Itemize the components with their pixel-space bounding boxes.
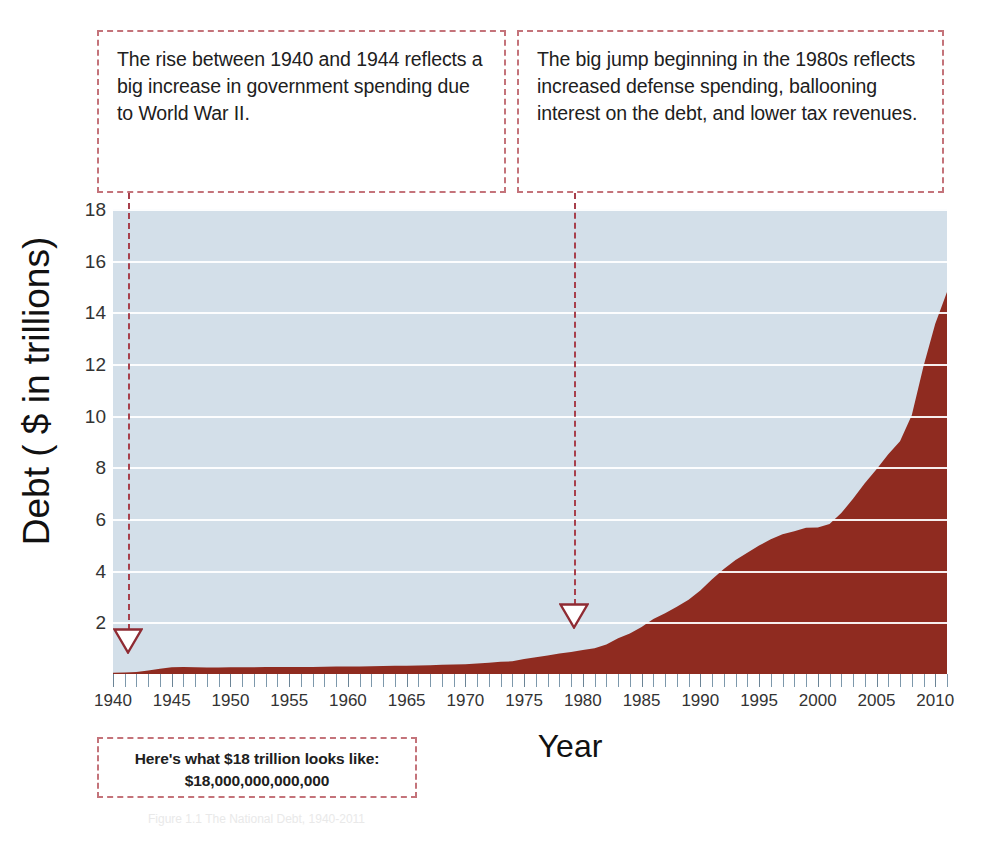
x-tick-mark <box>501 674 502 687</box>
gridline <box>113 261 947 263</box>
x-tick-mark <box>266 674 267 687</box>
x-tick-mark <box>571 674 572 687</box>
x-tick-mark <box>912 674 913 687</box>
y-tick-label: 8 <box>68 458 106 477</box>
x-tick-mark <box>618 674 619 687</box>
x-tick-mark <box>465 674 466 687</box>
annotation-trillion-line1: Here's what $18 trillion looks like: <box>105 748 409 770</box>
x-tick-label: 2000 <box>788 691 848 711</box>
annotation-eighties: The big jump beginning in the 1980s refl… <box>517 30 944 193</box>
x-tick-mark <box>806 674 807 687</box>
x-tick-mark <box>841 674 842 687</box>
y-tick-label: 18 <box>68 200 106 219</box>
x-tick-mark <box>512 674 513 687</box>
annotation-eighties-text: The big jump beginning in the 1980s refl… <box>537 46 926 127</box>
annotation-trillion-box: Here's what $18 trillion looks like: $18… <box>97 737 417 798</box>
x-tick-mark <box>865 674 866 687</box>
x-tick-mark <box>348 674 349 687</box>
x-tick-mark <box>454 674 455 687</box>
pointer-triangle-ww2 <box>113 628 143 654</box>
x-tick-mark <box>771 674 772 687</box>
x-tick-mark <box>242 674 243 687</box>
y-tick-label: 2 <box>68 613 106 632</box>
gridline <box>113 622 947 624</box>
x-tick-mark <box>595 674 596 687</box>
y-tick-label: 12 <box>68 355 106 374</box>
x-tick-mark <box>783 674 784 687</box>
y-tick-label: 6 <box>68 510 106 529</box>
x-tick-mark <box>360 674 361 687</box>
x-tick-mark <box>712 674 713 687</box>
x-tick-mark <box>395 674 396 687</box>
x-tick-mark <box>900 674 901 687</box>
pointer-line-eighties <box>574 193 576 605</box>
x-tick-mark <box>313 674 314 687</box>
x-tick-mark <box>207 674 208 687</box>
x-tick-mark <box>489 674 490 687</box>
x-tick-mark <box>289 674 290 687</box>
x-tick-label: 1975 <box>494 691 554 711</box>
x-tick-mark <box>407 674 408 687</box>
x-tick-mark <box>477 674 478 687</box>
x-tick-mark <box>125 674 126 687</box>
x-tick-mark <box>653 674 654 687</box>
x-tick-mark <box>665 674 666 687</box>
x-tick-mark <box>383 674 384 687</box>
x-tick-mark <box>524 674 525 687</box>
gridline <box>113 312 947 314</box>
x-tick-label: 1960 <box>318 691 378 711</box>
x-tick-mark <box>642 674 643 687</box>
x-tick-mark <box>947 674 948 687</box>
x-tick-mark <box>195 674 196 687</box>
x-tick-mark <box>794 674 795 687</box>
x-tick-mark <box>113 674 114 687</box>
x-tick-label: 2005 <box>847 691 907 711</box>
x-tick-mark <box>230 674 231 687</box>
y-tick-label: 16 <box>68 252 106 271</box>
x-tick-mark <box>160 674 161 687</box>
x-tick-mark <box>583 674 584 687</box>
x-tick-label: 1940 <box>83 691 143 711</box>
x-tick-mark <box>924 674 925 687</box>
x-tick-label: 1965 <box>377 691 437 711</box>
annotation-trillion-line2: $18,000,000,000,000 <box>105 770 409 792</box>
gridline <box>113 364 947 366</box>
pointer-triangle-eighties <box>559 603 589 629</box>
x-axis-title: Year <box>400 728 740 765</box>
x-tick-mark <box>371 674 372 687</box>
x-axis-tick-labels: 1940194519501955196019651970197519801985… <box>113 691 947 717</box>
x-tick-label: 1995 <box>729 691 789 711</box>
annotation-ww2: The rise between 1940 and 1944 reflects … <box>97 30 506 193</box>
x-tick-mark <box>148 674 149 687</box>
x-tick-mark <box>700 674 701 687</box>
x-tick-mark <box>877 674 878 687</box>
x-tick-mark <box>430 674 431 687</box>
plot-area <box>113 209 947 674</box>
x-tick-label: 1980 <box>553 691 613 711</box>
y-axis-tick-labels: 18161412108642 <box>58 209 106 674</box>
x-tick-mark <box>830 674 831 687</box>
annotation-ww2-text: The rise between 1940 and 1944 reflects … <box>117 46 488 127</box>
x-tick-mark <box>219 674 220 687</box>
x-tick-mark <box>548 674 549 687</box>
figure-caption: Figure 1.1 The National Debt, 1940-2011 <box>148 812 748 826</box>
x-tick-label: 1955 <box>259 691 319 711</box>
x-tick-mark <box>336 674 337 687</box>
x-tick-mark <box>301 674 302 687</box>
x-tick-mark <box>724 674 725 687</box>
x-tick-mark <box>606 674 607 687</box>
x-tick-mark <box>630 674 631 687</box>
x-tick-mark <box>677 674 678 687</box>
x-tick-mark <box>536 674 537 687</box>
gridline <box>113 416 947 418</box>
gridline <box>113 571 947 573</box>
x-tick-mark <box>324 674 325 687</box>
x-tick-label: 1950 <box>200 691 260 711</box>
x-tick-mark <box>277 674 278 687</box>
x-tick-mark <box>888 674 889 687</box>
y-tick-label: 4 <box>68 562 106 581</box>
x-tick-mark <box>442 674 443 687</box>
y-tick-label: 10 <box>68 407 106 426</box>
y-axis-title: Debt ( $ in trillions) <box>16 156 58 626</box>
x-tick-label: 1985 <box>612 691 672 711</box>
